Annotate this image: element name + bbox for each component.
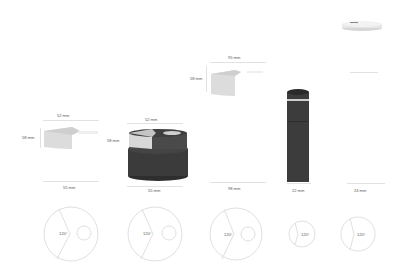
jar-illustration — [124, 127, 194, 187]
dimension-line — [287, 183, 311, 184]
dimension-line — [210, 62, 266, 63]
product-2-bottom-width-label: 55 mm — [148, 188, 160, 193]
product-1-bottom-width-label: 55 mm — [63, 185, 75, 190]
dimension-line — [40, 128, 41, 148]
product-3-height-label: 58 mm — [190, 76, 202, 81]
jar-cap-illustration — [209, 66, 269, 101]
angle-label-1: 120° — [59, 231, 67, 236]
lid-illustration — [340, 16, 390, 36]
dimension-line — [43, 120, 99, 121]
product-1-height-label: 58 mm — [22, 135, 34, 140]
angle-label-5: 120° — [357, 232, 365, 237]
product-3-bottom-width-label: 98 mm — [228, 186, 240, 191]
dimension-line — [350, 72, 378, 73]
angle-label-3: 120° — [224, 232, 232, 237]
product-4-bottom-width-label: 22 mm — [292, 188, 304, 193]
dimension-line — [127, 186, 183, 187]
product-1-top-width-label: 52 mm — [57, 113, 69, 118]
dimension-line — [347, 183, 385, 184]
product-2-height-label: 58 mm — [107, 138, 119, 143]
jar-cap-illustration — [42, 125, 102, 155]
angle-label-2: 120° — [143, 231, 151, 236]
product-5-bottom-width-label: 24 mm — [354, 188, 366, 193]
tall-bottle-illustration — [286, 86, 316, 196]
product-3-top-width-label: 95 mm — [228, 55, 240, 60]
top-view-diagrams — [0, 200, 402, 280]
angle-label-4: 120° — [301, 232, 309, 237]
dimension-line — [43, 181, 99, 182]
dimension-line — [210, 182, 266, 183]
product-2-top-width-label: 52 mm — [145, 117, 157, 122]
dimension-line — [206, 66, 207, 92]
dimension-line — [127, 123, 183, 124]
